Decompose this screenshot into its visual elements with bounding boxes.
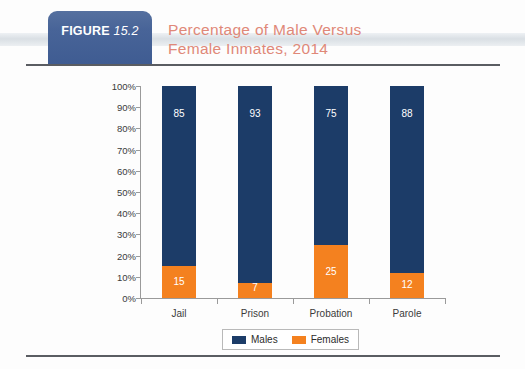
y-axis-tick-label: 70% bbox=[98, 144, 136, 155]
y-axis-tick-label: 100% bbox=[98, 81, 136, 92]
x-axis-tick-mark bbox=[293, 299, 294, 304]
footer-divider bbox=[26, 355, 500, 357]
header-divider bbox=[26, 64, 500, 66]
bar-value-label: 12 bbox=[390, 279, 424, 291]
x-axis-tick-mark bbox=[217, 299, 218, 304]
y-axis-tick-mark bbox=[136, 192, 140, 193]
y-axis-tick-label: 50% bbox=[98, 187, 136, 198]
y-axis-tick-mark bbox=[136, 150, 140, 151]
figure-badge-text: FIGURE 15.2 bbox=[48, 24, 152, 38]
y-axis-tick-label: 80% bbox=[98, 123, 136, 134]
y-axis-tick-mark bbox=[136, 213, 140, 214]
bars-container: 158579325751288 bbox=[141, 86, 445, 298]
bar-value-label: 93 bbox=[238, 108, 272, 120]
y-axis-tick-label: 0% bbox=[98, 293, 136, 304]
figure-title-line-2: Female Inmates, 2014 bbox=[168, 39, 498, 58]
x-axis-category-label: Parole bbox=[362, 308, 452, 319]
figure-badge-number: 15.2 bbox=[113, 24, 138, 38]
y-axis-tick-label: 40% bbox=[98, 208, 136, 219]
y-axis-tick-mark bbox=[136, 277, 140, 278]
y-axis-tick-mark bbox=[136, 234, 140, 235]
y-axis-tick-mark bbox=[136, 86, 140, 87]
bar-value-label: 25 bbox=[314, 266, 348, 278]
bar-group[interactable]: 793 bbox=[238, 86, 272, 298]
legend-swatch-males bbox=[232, 336, 246, 344]
x-axis-tick-mark bbox=[141, 299, 142, 304]
y-axis-tick-label: 10% bbox=[98, 271, 136, 282]
bar-value-label: 75 bbox=[314, 108, 348, 120]
y-axis-ticks: 100%90%80%70%60%50%40%30%20%10%0% bbox=[92, 86, 136, 299]
bar-value-label: 15 bbox=[162, 276, 196, 288]
chart-legend: MalesFemales bbox=[222, 329, 359, 350]
bar-group[interactable]: 1288 bbox=[390, 86, 424, 298]
bar-group[interactable]: 2575 bbox=[314, 86, 348, 298]
y-axis-tick-mark bbox=[136, 256, 140, 257]
y-axis-tick-mark bbox=[136, 171, 140, 172]
bar-group[interactable]: 1585 bbox=[162, 86, 196, 298]
y-axis-tick-label: 30% bbox=[98, 229, 136, 240]
bar-value-label: 7 bbox=[238, 282, 272, 294]
x-axis-tick-mark bbox=[369, 299, 370, 304]
figure-container: FIGURE 15.2 Percentage of Male Versus Fe… bbox=[0, 0, 525, 369]
y-axis-tick-label: 90% bbox=[98, 102, 136, 113]
figure-title-line-1: Percentage of Male Versus bbox=[168, 20, 498, 39]
y-axis-tick-label: 20% bbox=[98, 250, 136, 261]
chart-plot-area: 100%90%80%70%60%50%40%30%20%10%0% 158579… bbox=[0, 70, 525, 350]
legend-label: Females bbox=[311, 334, 349, 345]
figure-badge-word: FIGURE bbox=[61, 24, 109, 38]
legend-label: Males bbox=[251, 334, 278, 345]
legend-item[interactable]: Males bbox=[232, 334, 278, 345]
x-axis-tick-mark bbox=[445, 299, 446, 304]
y-axis-tick-mark bbox=[136, 128, 140, 129]
bar-value-label: 85 bbox=[162, 108, 196, 120]
legend-item[interactable]: Females bbox=[292, 334, 349, 345]
y-axis-tick-mark bbox=[136, 298, 140, 299]
bar-value-label: 88 bbox=[390, 108, 424, 120]
y-axis-tick-mark bbox=[136, 107, 140, 108]
y-axis-tick-label: 60% bbox=[98, 165, 136, 176]
figure-badge: FIGURE 15.2 bbox=[48, 11, 152, 64]
legend-swatch-females bbox=[292, 336, 306, 344]
figure-title: Percentage of Male Versus Female Inmates… bbox=[168, 20, 498, 58]
